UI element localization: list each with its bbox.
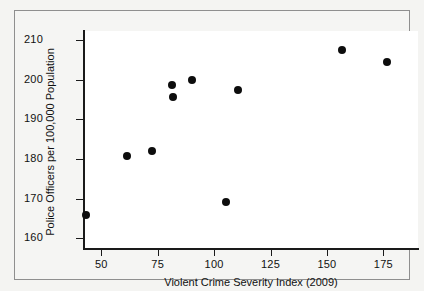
- x-tick-label: 100: [194, 258, 234, 270]
- plot-area: [84, 31, 418, 249]
- y-tick-mark: [76, 199, 83, 200]
- scatter-plot-figure: 160170180190200210 5075100125150175 Viol…: [0, 0, 424, 291]
- data-point: [383, 58, 391, 66]
- x-tick-mark: [327, 250, 328, 256]
- x-tick-label: 50: [81, 258, 121, 270]
- data-point: [148, 147, 156, 155]
- data-point: [188, 76, 196, 84]
- y-tick-mark: [76, 159, 83, 160]
- y-tick-mark: [76, 238, 83, 239]
- data-point: [169, 93, 177, 101]
- x-tick-label: 75: [138, 258, 178, 270]
- x-tick-mark: [214, 250, 215, 256]
- y-axis-title: Police Officers per 100,000 Population: [44, 32, 56, 252]
- figure-border: 160170180190200210 5075100125150175 Viol…: [14, 10, 410, 280]
- y-tick-mark: [76, 40, 83, 41]
- y-tick-label: 180: [24, 152, 43, 164]
- y-tick-mark: [76, 119, 83, 120]
- y-tick-label: 200: [24, 73, 43, 85]
- y-tick-mark: [76, 80, 83, 81]
- y-tick-label: 190: [24, 112, 43, 124]
- x-axis-spine: [83, 248, 419, 250]
- x-tick-mark: [383, 250, 384, 256]
- x-tick-mark: [101, 250, 102, 256]
- data-point: [123, 152, 131, 160]
- y-tick-label: 210: [24, 33, 43, 45]
- y-tick-label: 170: [24, 192, 43, 204]
- x-tick-mark: [158, 250, 159, 256]
- data-point: [168, 81, 176, 89]
- x-tick-label: 175: [363, 258, 403, 270]
- y-tick-label: 160: [24, 231, 43, 243]
- x-axis-title: Violent Crime Severity Index (2009): [84, 276, 418, 288]
- data-point: [82, 211, 90, 219]
- x-tick-mark: [271, 250, 272, 256]
- x-tick-label: 125: [251, 258, 291, 270]
- x-tick-label: 150: [307, 258, 347, 270]
- data-point: [234, 86, 242, 94]
